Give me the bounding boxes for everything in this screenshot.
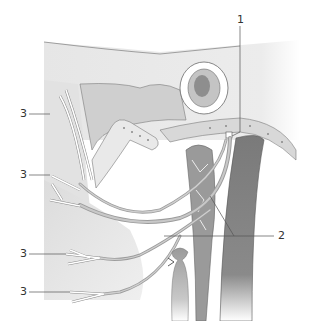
label-3-lower: 3 [20,286,27,297]
label-1: 1 [237,14,244,25]
label-2: 2 [278,230,285,241]
label-3-mid-upper: 3 [20,169,27,180]
label-3-mid-lower: 3 [20,248,27,259]
auditory-canal [180,62,228,114]
lower-bulb [168,248,188,321]
anatomy-illustration [0,0,318,321]
label-3-upper: 3 [20,108,27,119]
